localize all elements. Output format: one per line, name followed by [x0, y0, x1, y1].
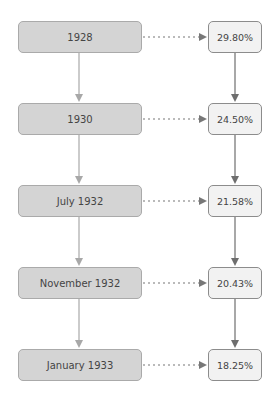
value-node-5: 18.25%	[208, 349, 262, 381]
dotted-horizontal-arrows	[143, 33, 207, 369]
year-node-november-1932: November 1932	[18, 267, 142, 299]
value-node-2: 24.50%	[208, 103, 262, 135]
value-node-4: 20.43%	[208, 267, 262, 299]
year-node-july-1932: July 1932	[18, 185, 142, 217]
year-node-january-1933: January 1933	[18, 349, 142, 381]
value-node-1: 29.80%	[208, 21, 262, 53]
value-node-3: 21.58%	[208, 185, 262, 217]
year-node-1930: 1930	[18, 103, 142, 135]
year-node-1928: 1928	[18, 21, 142, 53]
